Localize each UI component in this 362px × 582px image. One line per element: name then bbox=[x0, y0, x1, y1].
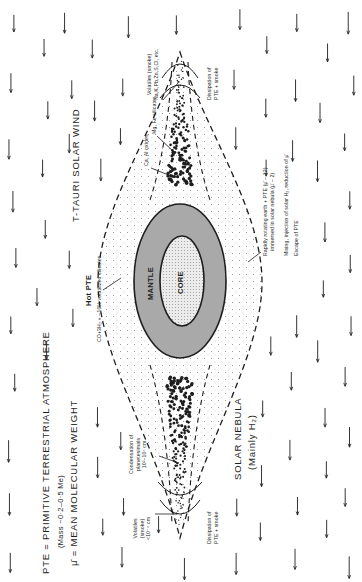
down-arrow-icon bbox=[265, 36, 268, 53]
particle bbox=[179, 483, 181, 485]
particle bbox=[184, 436, 187, 439]
particle bbox=[179, 464, 181, 466]
particle bbox=[176, 474, 178, 476]
particle bbox=[179, 478, 181, 480]
particle bbox=[178, 443, 180, 445]
dissipation-bottom-label: Dissipation of PTE + smoke bbox=[206, 511, 219, 544]
down-arrow-icon bbox=[183, 558, 186, 580]
particle bbox=[172, 396, 175, 399]
particle bbox=[182, 71, 183, 72]
down-arrow-icon bbox=[121, 547, 124, 567]
down-arrow-icon bbox=[121, 79, 124, 97]
down-arrow-icon bbox=[8, 139, 11, 159]
particle bbox=[176, 139, 179, 142]
down-arrow-icon bbox=[264, 99, 267, 118]
particle bbox=[172, 457, 174, 459]
particle bbox=[172, 153, 175, 156]
mantle-label: MANTLE bbox=[146, 267, 155, 300]
particle bbox=[182, 77, 183, 78]
particle bbox=[176, 482, 178, 484]
particle bbox=[186, 138, 189, 141]
particle bbox=[172, 407, 175, 410]
particle bbox=[176, 381, 179, 384]
particle bbox=[177, 80, 179, 82]
particle bbox=[175, 115, 177, 117]
particle bbox=[171, 389, 174, 392]
particle bbox=[179, 378, 182, 381]
particle bbox=[183, 444, 185, 446]
particle bbox=[175, 465, 177, 467]
particle bbox=[177, 502, 179, 504]
volatiles-top-label: Volatiles (smoke) Na,K,Pb,Zn,S,Cl, etc. bbox=[146, 49, 159, 100]
down-arrow-icon bbox=[343, 133, 346, 150]
dissipation-bottom-line1: Dissipation of bbox=[206, 511, 213, 544]
particle bbox=[182, 137, 185, 140]
particle bbox=[184, 487, 186, 489]
particle bbox=[173, 403, 176, 406]
particle bbox=[178, 520, 179, 521]
particle bbox=[173, 467, 175, 469]
particle bbox=[187, 426, 190, 429]
particle bbox=[179, 96, 181, 98]
down-arrow-icon bbox=[324, 222, 327, 242]
particle bbox=[174, 108, 176, 110]
particle bbox=[182, 165, 185, 168]
particle bbox=[181, 415, 184, 418]
particle bbox=[174, 141, 177, 144]
particle bbox=[170, 166, 173, 169]
mg-fe-silicates-label: Mg, Fe silicates bbox=[151, 96, 158, 134]
particle bbox=[182, 476, 184, 478]
particle bbox=[182, 104, 184, 106]
particle bbox=[169, 423, 172, 426]
particle bbox=[187, 162, 190, 165]
particle bbox=[183, 86, 185, 88]
particle bbox=[175, 458, 177, 460]
down-arrow-icon bbox=[239, 9, 242, 30]
particle bbox=[178, 123, 180, 125]
particle bbox=[176, 89, 178, 91]
particle bbox=[188, 398, 191, 401]
down-arrow-icon bbox=[294, 79, 297, 101]
down-arrow-icon bbox=[347, 12, 350, 34]
pte-definition: PTE = PRIMITIVE TERRESTRIAL ATMOSPHERE bbox=[40, 331, 51, 574]
particle bbox=[181, 436, 184, 439]
particle bbox=[172, 442, 174, 444]
down-arrow-icon bbox=[9, 553, 12, 573]
solar-nebula-label: SOLAR NEBULA bbox=[232, 398, 243, 480]
particle bbox=[170, 383, 173, 386]
hot-pte-label: Hot PTE bbox=[84, 275, 93, 306]
particle bbox=[178, 81, 180, 83]
particle bbox=[180, 505, 182, 507]
down-arrow-icon bbox=[235, 499, 238, 517]
particle bbox=[174, 453, 176, 455]
particle bbox=[176, 175, 179, 178]
particle bbox=[186, 170, 189, 173]
particle bbox=[179, 455, 181, 457]
particle bbox=[178, 489, 180, 491]
particle bbox=[178, 524, 179, 525]
down-arrow-icon bbox=[316, 160, 319, 181]
condensation-line1: Condensation of bbox=[128, 435, 135, 474]
down-arrow-icon bbox=[233, 70, 236, 90]
particle bbox=[175, 172, 178, 175]
dissipation-top-line1: Dissipation of bbox=[206, 67, 213, 100]
particle bbox=[180, 424, 183, 427]
down-arrow-icon bbox=[295, 14, 298, 32]
particle bbox=[179, 102, 181, 104]
particle bbox=[176, 421, 179, 424]
particle bbox=[181, 78, 183, 80]
particle bbox=[179, 467, 181, 469]
particle bbox=[185, 377, 188, 380]
particle bbox=[177, 510, 178, 511]
down-arrow-icon bbox=[316, 340, 319, 362]
particle bbox=[184, 140, 187, 143]
mixing-label: Mixing, injection of solar H₂, reduction… bbox=[283, 155, 290, 256]
condensation-line3: 10²–10⁵ cm bbox=[141, 435, 148, 474]
particle bbox=[182, 97, 184, 99]
down-arrow-icon bbox=[43, 39, 46, 57]
particle bbox=[174, 183, 177, 186]
particle bbox=[184, 395, 187, 398]
down-arrow-icon bbox=[295, 315, 298, 337]
down-arrow-icon bbox=[290, 372, 293, 390]
particle bbox=[181, 69, 182, 70]
